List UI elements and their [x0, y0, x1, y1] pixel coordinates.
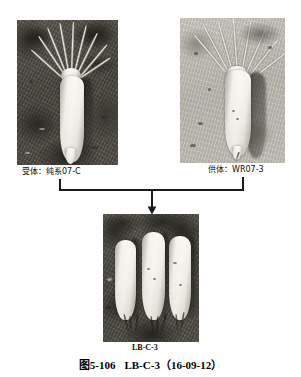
soil-speck	[194, 52, 198, 55]
soil-speck	[25, 152, 30, 154]
photo-recipient	[17, 20, 118, 165]
soil-speck	[232, 110, 235, 112]
radish-root	[225, 70, 251, 156]
figure-caption-number: 图5-106	[79, 359, 116, 371]
figure-container: 受体：纯系07-C 供体：WR07-3	[0, 0, 301, 377]
photo-recipient-label: 受体：纯系07-C	[22, 167, 81, 177]
figure-caption: 图5-106LB-C-3（16-09-12）	[0, 356, 301, 372]
photo-progeny-label: LB-C-3	[132, 343, 158, 353]
soil-speck	[173, 262, 177, 264]
soil-speck	[29, 80, 33, 83]
radish-root-right	[169, 236, 191, 320]
soil-speck	[107, 278, 112, 281]
soil-speck	[153, 278, 156, 280]
soil-speck	[268, 46, 272, 49]
soil-speck	[39, 128, 45, 130]
soil-speck	[208, 88, 211, 91]
leaf-blade	[238, 22, 282, 46]
soil-speck	[179, 284, 182, 286]
soil-speck	[147, 268, 150, 270]
radish-root-left	[115, 240, 136, 320]
soil-speck	[91, 146, 98, 149]
soil-speck	[236, 118, 239, 120]
figure-caption-date: （16-09-12）	[160, 359, 222, 371]
photo-progeny	[103, 214, 199, 342]
photo-donor-label: 供体：WR07-3	[208, 165, 264, 175]
radish-root-center	[142, 232, 165, 320]
soil-speck	[101, 116, 106, 119]
photo-donor	[180, 18, 285, 163]
figure-caption-name: LB-C-3	[124, 359, 159, 371]
soil-speck	[105, 306, 111, 309]
soil-speck	[190, 144, 196, 147]
soil-speck	[198, 122, 203, 125]
